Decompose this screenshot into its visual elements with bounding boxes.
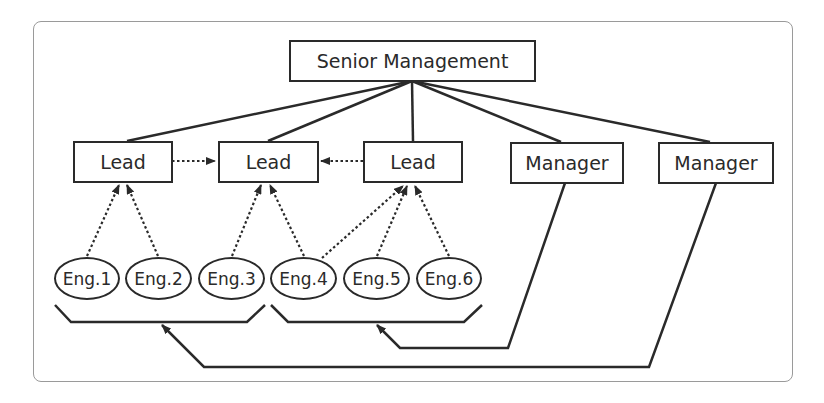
engineer-node-3: Eng.3 — [198, 257, 265, 300]
group-brackets — [55, 305, 482, 322]
lead-label: Lead — [100, 151, 146, 173]
engineer-node-4: Eng.4 — [270, 257, 337, 300]
lead-box-1: Lead — [73, 141, 173, 183]
senior-management-label: Senior Management — [317, 50, 509, 72]
manager-box-1: Manager — [510, 142, 624, 184]
engineer-label: Eng.2 — [134, 269, 183, 289]
solid-reporting-lines — [127, 81, 710, 142]
engineer-label: Eng.5 — [352, 269, 401, 289]
engineer-label: Eng.6 — [425, 269, 474, 289]
engineer-label: Eng.4 — [279, 269, 328, 289]
engineer-node-1: Eng.1 — [54, 257, 120, 300]
manager-label: Manager — [525, 152, 608, 174]
engineer-label: Eng.3 — [207, 269, 256, 289]
lead-box-3: Lead — [363, 141, 463, 183]
engineer-node-5: Eng.5 — [343, 257, 410, 300]
engineer-node-2: Eng.2 — [125, 257, 192, 300]
senior-management-box: Senior Management — [289, 40, 536, 82]
lead-box-2: Lead — [218, 141, 319, 183]
manager-box-2: Manager — [658, 142, 774, 184]
lead-label: Lead — [390, 151, 436, 173]
manager-label: Manager — [674, 152, 757, 174]
engineer-label: Eng.1 — [63, 269, 112, 289]
engineer-node-6: Eng.6 — [416, 257, 482, 300]
lead-label: Lead — [246, 151, 292, 173]
